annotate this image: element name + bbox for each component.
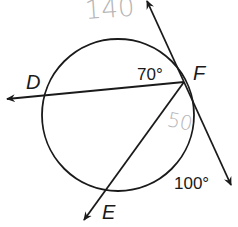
handwritten-140: 140 <box>84 0 136 25</box>
secant-FE <box>84 82 184 220</box>
point-label-F: F <box>193 62 207 84</box>
handwritten-50: 50 <box>165 107 195 136</box>
point-label-E: E <box>102 201 116 223</box>
angle-label-100: 100° <box>174 174 209 193</box>
geometry-diagram: D F E 70° 100° 140 50 <box>0 0 238 227</box>
angle-label-70: 70° <box>137 65 163 84</box>
point-label-D: D <box>26 71 40 93</box>
